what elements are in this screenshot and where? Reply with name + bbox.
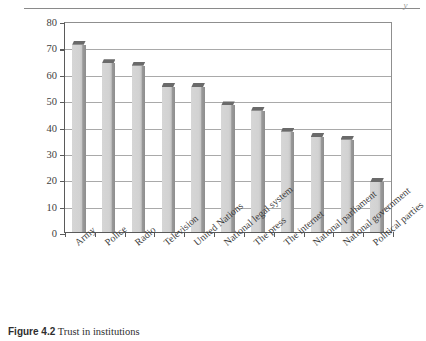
bar-top-face [370, 178, 384, 182]
bar-body [162, 87, 176, 232]
bar-army[interactable] [72, 23, 86, 232]
bar-the-press[interactable] [251, 23, 265, 232]
bar-front-face [162, 87, 176, 232]
bar-top-face [251, 107, 265, 111]
bar-top-face [281, 128, 295, 132]
bar-top-face [221, 101, 235, 105]
bar-national-parliament[interactable] [311, 23, 325, 232]
y-axis-tick-label: 0 [52, 229, 57, 240]
bar-top-face [132, 62, 146, 66]
bar-top-face [72, 41, 86, 45]
figure-caption-text: Trust in institutions [58, 326, 140, 337]
bar-body [191, 87, 205, 232]
y-axis-tick-label: 30 [47, 150, 58, 161]
bar-top-face [162, 83, 176, 87]
bar-radio[interactable] [132, 23, 146, 232]
bar-front-face [72, 45, 86, 232]
bar-national-legal-system[interactable] [221, 23, 235, 232]
bar-national-government[interactable] [341, 23, 355, 232]
bar-body [72, 45, 86, 232]
bar-police[interactable] [102, 23, 116, 232]
x-axis-tick-mark [65, 232, 66, 237]
y-axis-tick-label: 50 [47, 97, 58, 108]
bars-layer [65, 23, 391, 232]
bar-body [102, 63, 116, 232]
figure-caption: Figure 4.2 Trust in institutions [8, 326, 140, 337]
figure-trust-in-institutions: Percentage tending to trust 010203040506… [0, 0, 426, 341]
y-axis-tick-label: 20 [47, 176, 58, 187]
bar-top-face [191, 83, 205, 87]
y-axis-tick-label: 60 [47, 71, 58, 82]
bar-front-face [191, 87, 205, 232]
y-axis-tick-label: 10 [47, 202, 58, 213]
y-axis-tick-label: 40 [47, 123, 58, 134]
bar-body [132, 66, 146, 232]
bar-front-face [102, 63, 116, 232]
bar-top-face [311, 133, 325, 137]
bar-front-face [132, 66, 146, 232]
plot-area: 01020304050607080 [64, 22, 392, 233]
bar-united-nations[interactable] [191, 23, 205, 232]
y-axis-tick-label: 70 [47, 44, 58, 55]
figure-caption-label: Figure 4.2 [8, 326, 55, 337]
bar-top-face [102, 59, 116, 63]
bar-television[interactable] [162, 23, 176, 232]
bar-top-face [341, 136, 355, 140]
y-axis-tick-label: 80 [47, 18, 58, 29]
